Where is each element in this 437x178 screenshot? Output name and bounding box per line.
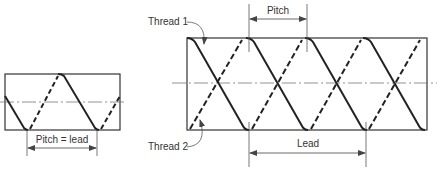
lead-label: Lead bbox=[297, 138, 319, 149]
pitch-equals-lead-label: Pitch = lead bbox=[36, 134, 89, 145]
double-start-thread: Pitch Lead Thread 1 Thread 2 bbox=[148, 4, 437, 167]
single-dashed-thread-a bbox=[30, 76, 58, 129]
thread-diagram: Pitch = lead Pitch Lead Thread 1 Thread … bbox=[0, 0, 437, 178]
thread1-segment-1 bbox=[187, 38, 249, 130]
thread1-segment-2 bbox=[246, 38, 308, 130]
thread1-segment-3 bbox=[305, 38, 367, 130]
thread2-label: Thread 2 bbox=[148, 141, 188, 152]
thread1-segment-4 bbox=[363, 38, 425, 130]
single-solid-thread-a bbox=[5, 96, 28, 130]
single-dashed-thread-b bbox=[101, 96, 120, 129]
thread2-leader bbox=[187, 120, 202, 147]
pitch-label: Pitch bbox=[267, 5, 289, 16]
thread1-leader bbox=[187, 22, 204, 44]
single-start-thread: Pitch = lead bbox=[0, 74, 125, 156]
thread1-label: Thread 1 bbox=[148, 16, 188, 27]
thread2-segment-1 bbox=[190, 40, 242, 129]
